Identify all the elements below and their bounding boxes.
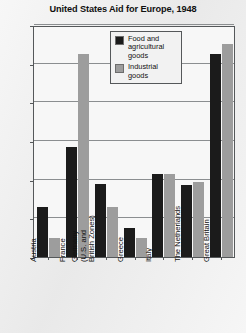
legend-label: Industrial goods: [128, 63, 178, 80]
x-tick-mark: [163, 257, 164, 260]
gridline: [34, 24, 234, 25]
x-category-label: Germany (U.S. and British Zones): [71, 215, 97, 262]
x-tick-mark: [106, 257, 107, 260]
x-category-label: Austria: [30, 238, 39, 262]
x-category-label: Greece: [117, 237, 126, 262]
chart-legend: Food and agricultural goods Industrial g…: [110, 31, 182, 84]
bar-group: [209, 27, 238, 257]
x-category-label: Great Britain: [204, 219, 213, 262]
x-tick-mark: [135, 257, 136, 260]
x-tick-mark: [192, 257, 193, 260]
x-category-label: France: [59, 238, 68, 262]
x-category-label: Italy: [146, 248, 155, 262]
bar-group: [36, 27, 65, 257]
legend-label: Food and agricultural goods: [128, 35, 178, 60]
x-tick-mark: [48, 257, 49, 260]
legend-swatch-industrial-icon: [115, 64, 124, 73]
bar: [152, 174, 163, 257]
x-category-label: The Netherlands: [175, 206, 184, 262]
legend-swatch-food-icon: [115, 36, 124, 45]
bar: [222, 44, 233, 257]
chart-title: United States Aid for Europe, 1948: [0, 4, 246, 14]
legend-item: Industrial goods: [115, 63, 178, 80]
x-tick-mark: [221, 257, 222, 260]
legend-item: Food and agricultural goods: [115, 35, 178, 60]
chart-container: United States Aid for Europe, 1948 Milli…: [0, 0, 246, 333]
